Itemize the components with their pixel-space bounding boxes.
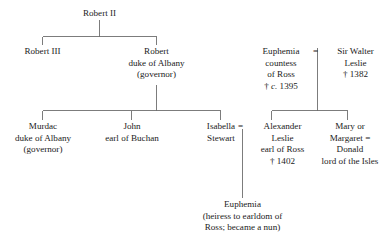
node-sir-walter-leslie[interactable]: Sir Walter Leslie † 1382 [321, 46, 390, 81]
walter-leslie-death: † 1382 [321, 69, 390, 81]
node-alexander-leslie-earl-of-ross[interactable]: Alexander Leslie earl of Ross † 1402 [246, 121, 319, 167]
alexander-surname: Leslie [246, 133, 319, 145]
john-title: earl of Buchan [90, 133, 174, 145]
euphemia-heiress-name: Euphemia [163, 199, 322, 211]
robert-albany-name: Robert [97, 46, 216, 58]
euphemia-ross-title: countess [248, 58, 314, 70]
murdac-title: duke of Albany [0, 133, 86, 145]
euphemia-heiress-note-1: (heiress to earldom of [163, 211, 322, 223]
murdac-role: (governor) [0, 144, 86, 156]
donald-name: Donald [310, 144, 390, 156]
mary-margaret-name: Mary or [310, 121, 390, 133]
euphemia-ross-of-ross: of Ross [248, 69, 314, 81]
walter-leslie-surname: Leslie [321, 58, 390, 70]
alexander-name: Alexander [246, 121, 319, 133]
node-robert-duke-of-albany[interactable]: Robert duke of Albany (governor) [97, 46, 216, 81]
euphemia-ross-name: Euphemia [248, 46, 314, 58]
mary-margaret-marriage: Margaret = [310, 133, 390, 145]
walter-leslie-name: Sir Walter [321, 46, 390, 58]
euphemia-walter-marriage-symbol: = [313, 46, 318, 58]
node-mary-or-margaret-donald[interactable]: Mary or Margaret = Donald lord of the Is… [310, 121, 390, 167]
robert-albany-title: duke of Albany [97, 58, 216, 70]
node-robert-ii[interactable]: Robert II [0, 8, 199, 20]
robert-albany-role: (governor) [97, 69, 216, 81]
isabella-surname: Stewart [188, 133, 254, 145]
murdac-name: Murdac [0, 121, 86, 133]
alexander-death: † 1402 [246, 156, 319, 168]
john-name: John [90, 121, 174, 133]
isabella-alexander-marriage-symbol: = [238, 121, 243, 133]
euphemia-heiress-note-2: Ross; became a nun) [163, 222, 322, 234]
isabella-name: Isabella [188, 121, 254, 133]
node-euphemia-countess-of-ross[interactable]: Euphemia countess of Ross † c. 1395 [248, 46, 314, 92]
euphemia-ross-death: † c. 1395 [248, 81, 314, 93]
alexander-title: earl of Ross [246, 144, 319, 156]
node-euphemia-heiress[interactable]: Euphemia (heiress to earldom of Ross; be… [163, 199, 322, 234]
node-john-earl-of-buchan[interactable]: John earl of Buchan [90, 121, 174, 144]
node-murdac-duke-of-albany[interactable]: Murdac duke of Albany (governor) [0, 121, 86, 156]
node-isabella-stewart[interactable]: Isabella Stewart [188, 121, 254, 144]
robert-iii-name: Robert III [0, 46, 85, 58]
node-robert-iii[interactable]: Robert III [0, 46, 85, 58]
robert-ii-name: Robert II [0, 8, 199, 20]
family-tree-diagram: Robert duke of Albany --> Robert II Ro [0, 0, 390, 250]
donald-title: lord of the Isles [310, 156, 390, 168]
